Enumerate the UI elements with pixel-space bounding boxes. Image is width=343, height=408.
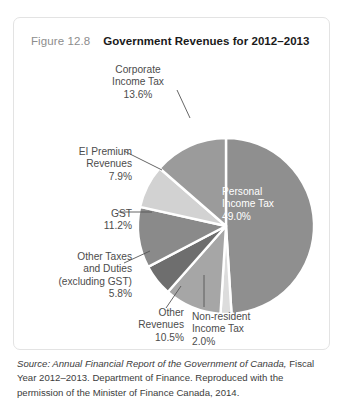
- pie-label-ei-premium-revenues: EI PremiumRevenues7.9%: [24, 146, 132, 183]
- pie-slice: [226, 138, 314, 314]
- source-note: Source: Annual Financial Report of the G…: [17, 357, 329, 400]
- figure-card: Figure 12.8 Government Revenues for 2012…: [13, 17, 330, 350]
- pie-label-gst: GST11.2%: [24, 208, 132, 233]
- pie-chart: CorporateIncome Tax13.6% EI PremiumReven…: [14, 18, 331, 351]
- source-citation-italic: Source: Annual Financial Report of the G…: [17, 358, 287, 369]
- pie-slice-group: [138, 138, 314, 314]
- pie-label-personal-income-tax: PersonalIncome Tax49.0%: [222, 186, 314, 223]
- pie-label-non-resident-income-tax: Non-residentIncome Tax2.0%: [192, 311, 302, 348]
- pie-label-other-revenues: OtherRevenues10.5%: [100, 307, 184, 344]
- pie-label-corporate-income-tax: CorporateIncome Tax13.6%: [72, 64, 204, 101]
- pie-label-other-taxes-and-duties: Other Taxesand Duties(excluding GST)5.8%: [16, 251, 132, 301]
